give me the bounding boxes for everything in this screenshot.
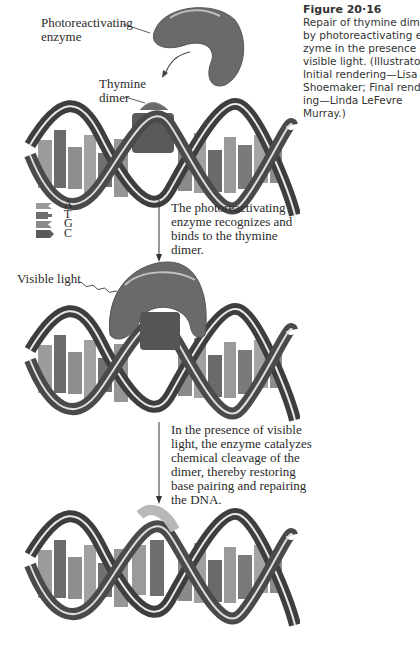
step-1-line: enzyme recognizes and	[171, 214, 292, 229]
caption-line: ing—Linda LeFevre	[303, 94, 420, 107]
caption-line: visible light. (Illustrato	[303, 55, 420, 68]
figure-caption: Figure 20·16 Repair of thymine dim by ph…	[303, 3, 420, 120]
step-1-text: The photoreactivating enzyme recognizes …	[171, 201, 292, 257]
step-2-line: the DNA.	[171, 492, 222, 507]
caption-line: Murray.)	[303, 107, 420, 120]
binding-arrow	[165, 52, 190, 75]
step-2-line: light, the enzyme catalyzes	[171, 436, 312, 451]
thymine-dimer-label: Thymine dimer	[99, 77, 146, 105]
enzyme-label-line1: Photoreactivating	[41, 15, 133, 30]
dimer-label-line2: dimer	[99, 90, 129, 105]
step-1-line: The photoreactivating	[171, 200, 285, 215]
step-1-line: dimer.	[171, 242, 204, 257]
caption-line: zyme in the presence o	[303, 42, 420, 55]
legend-base-c: C	[64, 226, 72, 240]
light-wave-icon	[78, 282, 119, 295]
step-2-line: dimer, thereby restoring	[171, 464, 296, 479]
caption-line: Initial rendering—Lisa	[303, 68, 420, 81]
enzyme-bound	[110, 262, 207, 350]
dna-helix-repaired	[30, 510, 295, 625]
step-1-line: binds to the thymine	[171, 228, 278, 243]
caption-line: by photoreactivating e	[303, 29, 420, 42]
base-legend: A T G C	[64, 200, 73, 238]
caption-line: Shoemaker; Final rend	[303, 81, 420, 94]
step-2-text: In the presence of visible light, the en…	[171, 423, 312, 507]
enzyme-label-line2: enzyme	[41, 29, 81, 44]
step-2-line: base pairing and repairing	[171, 478, 306, 493]
repair-illustration	[0, 0, 300, 667]
step-2-line: chemical cleavage of the	[171, 450, 300, 465]
step-2-line: In the presence of visible	[171, 422, 302, 437]
enzyme-free	[153, 8, 243, 86]
enzyme-label: Photoreactivating enzyme	[41, 16, 133, 44]
figure-number: Figure 20·16	[303, 3, 420, 16]
base-legend-icons	[36, 203, 54, 238]
caption-line: Repair of thymine dim	[303, 16, 420, 29]
visible-light-label: Visible light	[17, 272, 81, 286]
dimer-label-line1: Thymine	[99, 76, 146, 91]
